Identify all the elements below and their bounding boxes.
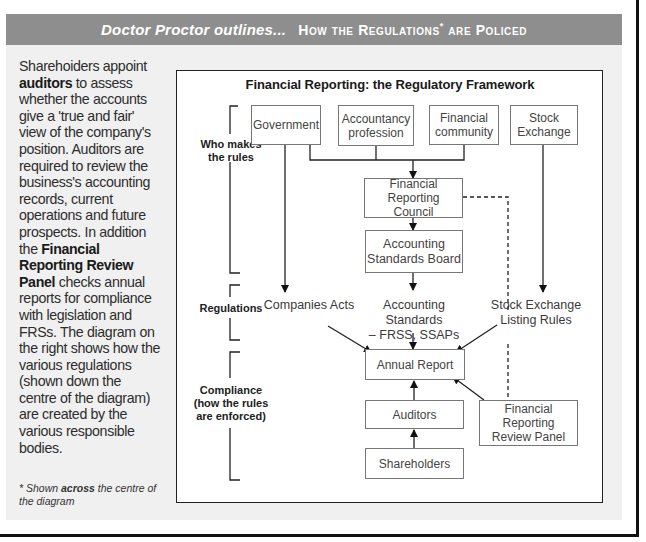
box-label: Shareholders [379,457,450,471]
label-line: Compliance [186,384,276,397]
box-financial-reporting-review-panel: Financial Reporting Review Panel [479,400,578,446]
box-accounting-standards-board: Accounting Standards Board [365,230,463,273]
text-segment: to assess whether the accounts give a 't… [19,75,151,257]
label-line: (how the rules [186,397,276,410]
panel-header: Doctor Proctor outlines... How the Regul… [6,14,622,45]
diagram-title: Financial Reporting: the Regulatory Fram… [176,77,604,92]
reg-companies-acts: Companies Acts [262,298,356,313]
box-label: Financial [440,111,488,125]
box-shareholders: Shareholders [365,448,464,479]
box-label: Financial Reporting [365,177,462,205]
reg-label: Companies Acts [264,298,354,312]
reg-accounting-standards: Accounting Standards – FRSS, SSAPs [357,298,471,343]
reg-listing-rules: Stock Exchange Listing Rules [486,298,586,328]
header-title-end: are Policed [444,22,527,38]
reg-label: Listing Rules [486,313,586,328]
box-label: profession [348,126,403,140]
text-segment: checks annual reports for compliance wit… [19,274,160,456]
box-financial-reporting-council: Financial Reporting Council [364,178,463,218]
header-lead: Doctor Proctor outlines... [101,21,286,38]
box-auditors: Auditors [365,400,464,429]
box-stock-exchange: Stock Exchange [510,105,578,145]
page-bottom-rule [0,534,639,537]
reg-label: Accounting Standards [357,298,471,328]
header-title: How the Regulations* are Policed [298,21,527,38]
sidebar-body-text: Sharehoiders appoint auditors to assess … [19,58,161,456]
box-label: Government [253,118,319,132]
box-label: Annual Report [377,358,454,372]
footnote-prefix: * Shown [19,482,61,494]
box-label: Exchange [517,125,570,139]
box-label: Standards Board [367,252,461,267]
label-compliance: Compliance (how the rules are enforced) [186,384,276,423]
label-line: are enforced) [186,410,276,423]
reg-label: – FRSS, SSAPs [357,328,471,343]
box-label: community [435,125,493,139]
text-emphasis-auditors: auditors [19,75,72,91]
box-government: Government [251,105,321,145]
box-annual-report: Annual Report [365,349,465,380]
label-line: the rules [196,151,266,164]
box-label: Stock [529,111,559,125]
box-accountancy-profession: Accountancy profession [338,105,414,146]
label-regulations: Regulations [196,302,266,315]
box-label: Financial Reporting [480,402,577,430]
header-title-main: How the Regulations [298,22,439,38]
page-right-rule [636,0,639,537]
label-line: Regulations [196,302,266,315]
reg-label: Stock Exchange [486,298,586,313]
box-financial-community: Financial community [429,105,499,145]
footnote-emphasis: across [61,482,95,494]
box-label: Accountancy [342,112,411,126]
box-label: Accounting [383,237,445,252]
box-label: Review Panel [492,430,565,444]
box-label: Council [393,205,433,219]
footnote: * Shown across the centre of the diagram [19,482,169,507]
text-segment: Sharehoiders appoint [19,58,147,74]
box-label: Auditors [392,408,436,422]
